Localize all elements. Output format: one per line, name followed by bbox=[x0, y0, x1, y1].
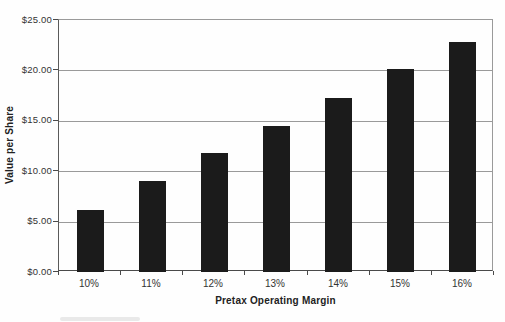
y-axis-tick bbox=[53, 120, 58, 121]
bar-16% bbox=[449, 42, 476, 272]
y-axis-tick bbox=[53, 19, 58, 20]
y-axis-tick-label: $15.00 bbox=[0, 114, 52, 125]
bar-11% bbox=[139, 181, 166, 272]
y-axis-tick-label: $10.00 bbox=[0, 165, 52, 176]
x-axis-tick-label: 13% bbox=[244, 278, 306, 289]
x-axis-tick-label: 14% bbox=[307, 278, 369, 289]
y-axis-tick-label: $5.00 bbox=[0, 215, 52, 226]
bar-15% bbox=[387, 69, 414, 272]
y-axis-tick-label: $20.00 bbox=[0, 64, 52, 75]
cutoff-scan-artifact bbox=[60, 317, 140, 321]
x-axis-tick bbox=[120, 271, 121, 275]
bar-13% bbox=[263, 126, 290, 272]
gridline bbox=[59, 121, 492, 122]
y-axis-tick-label: $25.00 bbox=[0, 14, 52, 25]
x-axis-tick-label: 10% bbox=[58, 278, 120, 289]
plot-area bbox=[58, 19, 493, 271]
y-axis-title: Value per Share bbox=[4, 75, 18, 215]
y-axis-tick bbox=[53, 170, 58, 171]
x-axis-tick bbox=[182, 271, 183, 275]
x-axis-tick bbox=[244, 271, 245, 275]
x-axis-tick-label: 11% bbox=[120, 278, 182, 289]
x-axis-tick bbox=[431, 271, 432, 275]
x-axis-tick bbox=[369, 271, 370, 275]
bar-14% bbox=[325, 98, 352, 272]
bar-chart-figure: Value per Share $0.00$5.00$10.00$15.00$2… bbox=[0, 0, 505, 322]
x-axis-tick-label: 16% bbox=[431, 278, 493, 289]
x-axis-title: Pretax Operating Margin bbox=[58, 295, 493, 306]
x-axis-tick bbox=[493, 271, 494, 275]
x-axis-tick-label: 12% bbox=[182, 278, 244, 289]
x-axis-tick bbox=[58, 271, 59, 275]
bar-12% bbox=[201, 153, 228, 272]
y-axis-tick bbox=[53, 69, 58, 70]
bar-10% bbox=[77, 210, 104, 272]
y-axis-tick bbox=[53, 221, 58, 222]
y-axis-tick-label: $0.00 bbox=[0, 266, 52, 277]
x-axis-tick-label: 15% bbox=[369, 278, 431, 289]
gridline bbox=[59, 70, 492, 71]
x-axis-tick bbox=[307, 271, 308, 275]
